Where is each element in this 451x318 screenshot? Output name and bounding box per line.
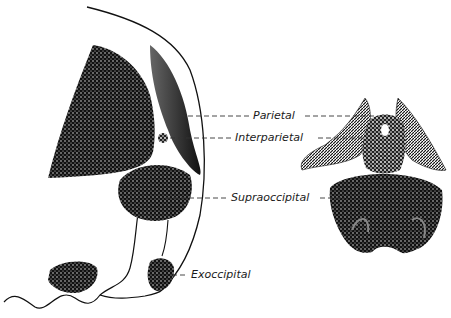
exoccipital-bone-lateral — [148, 258, 174, 291]
interparietal-bone-lateral — [150, 45, 201, 175]
foramen-gap — [381, 124, 389, 136]
supraoccipital-bone-posterior — [330, 174, 443, 253]
label-supraoccipital: Supraoccipital — [230, 192, 310, 204]
basioccipital-piece — [48, 261, 98, 293]
interparietal-ossicle — [158, 133, 168, 143]
label-exoccipital: Exoccipital — [190, 269, 252, 281]
parietal-bone-left-wing — [301, 98, 370, 170]
interparietal-bone-posterior — [362, 115, 405, 174]
parietal-bone-lateral — [48, 45, 155, 178]
supraoccipital-bone-lateral — [118, 165, 192, 221]
label-interparietal: Interparietal — [234, 132, 304, 144]
anatomical-figure: Parietal Interparietal Supraoccipital Ex… — [0, 0, 451, 318]
label-parietal: Parietal — [252, 110, 296, 122]
